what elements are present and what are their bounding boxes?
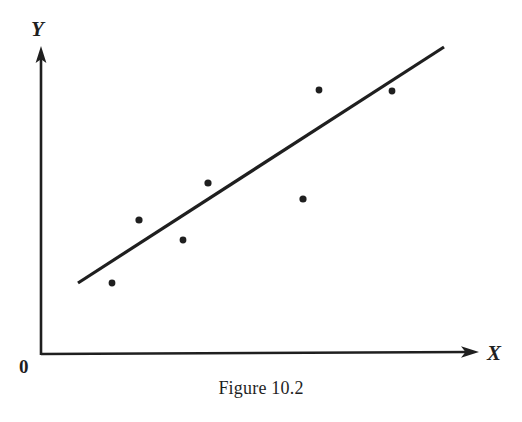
data-point bbox=[299, 195, 306, 202]
data-point bbox=[135, 216, 142, 223]
data-point bbox=[180, 237, 187, 244]
y-axis bbox=[36, 46, 47, 355]
data-point-group bbox=[109, 87, 396, 287]
y-axis-label: Y bbox=[31, 17, 46, 41]
data-point bbox=[316, 87, 323, 94]
regression-line bbox=[78, 47, 444, 283]
data-point bbox=[389, 88, 396, 95]
origin-label: 0 bbox=[19, 356, 29, 377]
figure-caption: Figure 10.2 bbox=[0, 378, 522, 399]
scatter-plot-chart: Y X 0 bbox=[0, 0, 522, 422]
x-axis bbox=[41, 346, 479, 358]
x-axis-line bbox=[41, 352, 470, 354]
data-point bbox=[109, 280, 116, 287]
x-axis-label: X bbox=[486, 341, 502, 365]
data-point bbox=[204, 179, 211, 186]
figure-container: Y X 0 Figure 10.2 bbox=[0, 0, 522, 422]
